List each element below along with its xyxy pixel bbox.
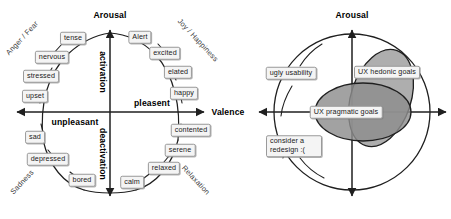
emotion-chip-excited: excited	[149, 47, 180, 60]
emotion-chip-calm: calm	[120, 176, 144, 189]
emotion-chip-depressed: depressed	[27, 153, 69, 166]
circumplex-pleasent-label: pleasent	[134, 98, 170, 108]
emotion-chip-upset: upset	[22, 90, 48, 103]
emotion-chip-alert: Alert	[128, 31, 151, 44]
emotion-chip-sad: sad	[25, 131, 45, 144]
emotion-chip-nervous: nervous	[35, 51, 69, 64]
circumplex-activation-label: activation	[98, 51, 108, 93]
emotion-chip-stressed: stressed	[23, 70, 59, 83]
emotion-chip-serene: serene	[165, 144, 196, 157]
emotion-chip-happy: happy	[170, 87, 198, 100]
shared-valence-label: Valence	[211, 107, 244, 117]
emotion-chip-elated: elated	[164, 66, 192, 79]
circumplex-unpleasant-label: unpleasant	[52, 117, 99, 127]
circumplex-deactivation-label: deactivation	[98, 128, 108, 180]
callout-consider-a-redesign: consider a redesign :(	[266, 135, 322, 157]
region-label-ux-pragmatic-goals: UX pragmatic goals	[310, 106, 383, 119]
figure-root: Arousal activation deactivation unpleasa…	[0, 0, 451, 219]
emotion-chip-tense: tense	[60, 32, 86, 45]
emotion-chip-relaxed: relaxed	[148, 162, 180, 175]
uxgoals-arousal-label: Arousal	[335, 10, 368, 20]
callout-ugly-usability: ugly usability	[266, 67, 317, 80]
circumplex-arousal-label: Arousal	[93, 10, 126, 20]
emotion-chip-contented: contented	[171, 124, 211, 137]
region-label-ux-hedonic-goals: UX hedonic goals	[354, 66, 420, 79]
emotion-chip-bored: bored	[69, 174, 96, 187]
